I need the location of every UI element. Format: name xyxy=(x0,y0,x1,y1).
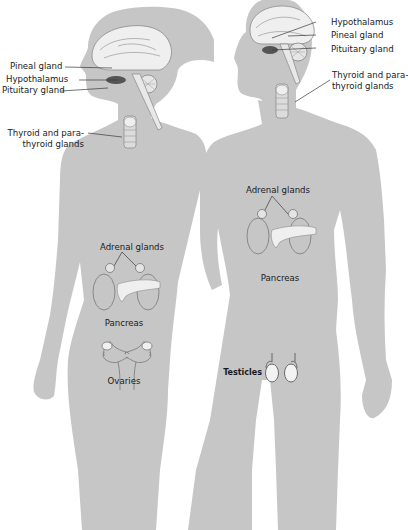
male-label-thyroid-line1: Thyroid and para- xyxy=(332,70,408,80)
male-label-adrenal-glands: Adrenal glands xyxy=(238,185,318,195)
male-thyroid-icon xyxy=(276,84,288,118)
male-label-testicles: Testicles xyxy=(220,368,262,378)
male-label-pancreas: Pancreas xyxy=(250,273,310,283)
female-label-thyroid-line2: thyroid glands xyxy=(6,139,84,149)
female-label-ovaries: Ovaries xyxy=(94,376,154,386)
male-label-pituitary-gland: Pituitary gland xyxy=(331,44,394,54)
female-label-pineal-gland: Pineal gland xyxy=(10,61,63,71)
female-label-pancreas: Pancreas xyxy=(94,318,154,328)
female-label-hypothalamus: Hypothalamus xyxy=(6,74,68,84)
female-thyroid-icon xyxy=(124,116,136,148)
female-label-pituitary-gland: Pituitary gland xyxy=(2,85,65,95)
female-label-thyroid-line1: Thyroid and para- xyxy=(6,128,84,138)
female-label-adrenal-glands: Adrenal glands xyxy=(92,242,172,252)
male-label-hypothalamus: Hypothalamus xyxy=(331,17,393,27)
male-label-thyroid-line2: thyroid glands xyxy=(332,81,394,91)
male-label-pineal-gland: Pineal gland xyxy=(331,30,384,40)
